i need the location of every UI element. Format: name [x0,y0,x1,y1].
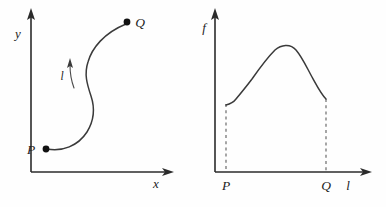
tick-label-q: Q [321,178,331,193]
right-f-axis [211,8,219,172]
right-panel: P Q f l [202,8,372,193]
right-l-axis-label: l [346,178,350,193]
direction-arrow-shaft [70,65,74,88]
left-panel: P Q l y x [13,8,174,191]
right-l-axis [215,168,372,176]
point-q-dot [124,19,131,26]
point-p: P [26,142,50,157]
point-q: Q [124,15,146,30]
left-x-axis-label: x [152,176,159,191]
point-q-label: Q [135,15,145,30]
right-f-axis-label: f [202,20,208,35]
arc-length-label: l [60,70,63,82]
point-p-dot [43,146,50,153]
figure-container: P Q l y x [0,0,386,207]
direction-arrow [67,58,74,88]
left-y-axis-label: y [13,26,21,41]
left-x-axis [31,168,174,176]
tick-label-p: P [221,178,230,193]
point-p-label: P [26,142,35,157]
right-curve-path [226,45,326,105]
figure-canvas: P Q l y x [0,0,386,207]
left-curve-path [47,24,126,150]
